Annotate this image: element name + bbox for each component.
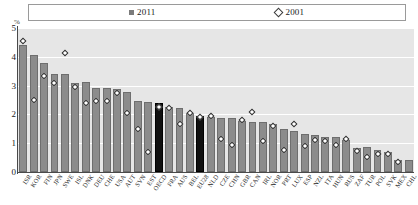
legend-label-2001: 2001: [285, 8, 304, 17]
diamond-marker: [291, 121, 298, 128]
bar: [155, 103, 163, 172]
bar-group: [71, 28, 79, 172]
bar-group: [40, 28, 48, 172]
legend-entry-2001: 2001: [275, 8, 304, 17]
bar: [61, 74, 69, 172]
bar: [405, 160, 413, 172]
diamond-marker: [249, 108, 256, 115]
bar: [51, 74, 59, 172]
y-axis-tick-label: 5: [12, 24, 17, 33]
bar-group: [144, 28, 152, 172]
bar-group: [290, 28, 298, 172]
bar: [144, 102, 152, 172]
bar-group: [342, 28, 350, 172]
bar-group: [280, 28, 288, 172]
bar-group: [228, 28, 236, 172]
bar: [176, 108, 184, 172]
bar-group: [363, 28, 371, 172]
bar: [123, 92, 131, 172]
bar: [249, 122, 257, 172]
bar: [342, 140, 350, 172]
x-axis-tick-label: FIN: [42, 173, 54, 186]
bar: [207, 117, 215, 172]
bar-group: [394, 28, 402, 172]
bar: [19, 45, 27, 172]
diamond-marker: [20, 37, 27, 44]
bar: [217, 118, 225, 172]
y-axis-tick-label: 3: [12, 81, 17, 90]
bar: [82, 82, 90, 172]
bar: [269, 124, 277, 172]
bar: [134, 101, 142, 172]
y-axis-tick-label: 0: [12, 168, 17, 177]
bar: [238, 121, 246, 172]
bar: [186, 113, 194, 172]
bar-group: [186, 28, 194, 172]
y-axis-tick-label: 4: [12, 52, 17, 61]
x-axis-labels: ISRKORFINJPNSWEISLDNKDEUCHEUSAAUTSVNESTO…: [18, 173, 414, 205]
filled-square-icon: [129, 10, 134, 15]
bar-group: [30, 28, 38, 172]
bar-group: [269, 28, 277, 172]
diamond-marker: [61, 50, 68, 57]
bar-group: [113, 28, 121, 172]
y-axis-tick-label: 1: [12, 139, 17, 148]
bar-group: [123, 28, 131, 172]
bar-group: [259, 28, 267, 172]
bar: [196, 116, 204, 172]
bar: [259, 122, 267, 172]
chart-container: 2011 2001 % 012345 ISRKORFINJPNSWEISLDNK…: [0, 0, 418, 205]
legend-entry-2011: 2011: [129, 8, 155, 17]
bar-group: [51, 28, 59, 172]
bar: [113, 89, 121, 172]
bar-group: [82, 28, 90, 172]
y-axis-line: [17, 26, 18, 174]
bar-group: [92, 28, 100, 172]
bar-group: [238, 28, 246, 172]
bar-group: [155, 28, 163, 172]
bar-group: [196, 28, 204, 172]
x-axis-tick-label: ZAF: [353, 173, 366, 187]
bar-group: [249, 28, 257, 172]
bar: [71, 83, 79, 172]
bar-group: [165, 28, 173, 172]
x-axis-tick-label: POL: [374, 173, 387, 187]
plot-area: 012345: [18, 28, 414, 172]
bar-group: [301, 28, 309, 172]
bar: [30, 55, 38, 172]
chart-legend: 2011 2001: [28, 4, 406, 21]
bar: [301, 134, 309, 172]
bar-series: [18, 28, 414, 172]
bar-group: [207, 28, 215, 172]
bar-group: [103, 28, 111, 172]
bar-group: [384, 28, 392, 172]
bar-group: [353, 28, 361, 172]
bar-group: [321, 28, 329, 172]
bar-group: [332, 28, 340, 172]
bar-group: [217, 28, 225, 172]
bar-group: [374, 28, 382, 172]
bar-group: [19, 28, 27, 172]
bar-group: [405, 28, 413, 172]
legend-label-2011: 2011: [137, 8, 155, 17]
bar-group: [61, 28, 69, 172]
y-axis-tick-label: 2: [12, 110, 17, 119]
bar-group: [311, 28, 319, 172]
bar-group: [134, 28, 142, 172]
open-diamond-icon: [274, 8, 284, 18]
bar-group: [176, 28, 184, 172]
bar: [290, 131, 298, 172]
bar: [165, 107, 173, 172]
